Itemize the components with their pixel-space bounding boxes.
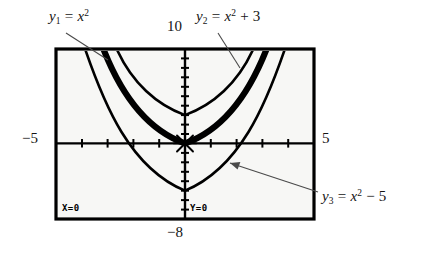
window-ymin-label: −8 <box>167 224 183 241</box>
annotation-y2-exponent: 2 <box>231 8 236 18</box>
annotation-y1-equals: = <box>65 8 74 24</box>
readout-y-value: Y=0 <box>190 203 207 213</box>
readout-x-value: X=0 <box>62 203 79 213</box>
annotation-y2-tail: + 3 <box>240 8 260 24</box>
annotation-y1-subscript: 1 <box>56 16 61 26</box>
annotation-y3-exponent: 2 <box>357 188 362 198</box>
annotation-label-y2: y2 = x2 + 3 <box>196 8 260 26</box>
figure-canvas: y1 = x2 y2 = x2 + 3 y3 = x2 − 5 10 −5 5 … <box>0 0 442 254</box>
annotation-y3-subscript: 3 <box>329 196 334 206</box>
annotation-y3-tail: − 5 <box>366 188 386 204</box>
trace-cursor-icon <box>174 133 196 155</box>
annotation-y3-equals: = <box>338 188 347 204</box>
annotation-y2-equals: = <box>212 8 221 24</box>
calculator-graph-svg <box>0 0 442 254</box>
window-ymax-label: 10 <box>167 18 182 35</box>
window-xmin-label: −5 <box>22 130 38 147</box>
annotation-y1-exponent: 2 <box>84 8 89 18</box>
annotation-y2-subscript: 2 <box>203 16 208 26</box>
annotation-label-y1: y1 = x2 <box>49 8 89 26</box>
annotation-label-y3: y3 = x2 − 5 <box>322 188 386 206</box>
window-xmax-label: 5 <box>322 130 330 147</box>
